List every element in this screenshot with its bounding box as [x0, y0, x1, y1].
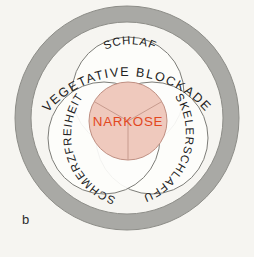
venn-diagram-svg: VEGETATIVE BLOCKADE SCHLAF MUSKELERSCHLA… — [0, 0, 254, 257]
figure-panel: VEGETATIVE BLOCKADE SCHLAF MUSKELERSCHLA… — [0, 0, 254, 257]
panel-label: b — [22, 212, 29, 227]
narkose-label: NARKOSE — [93, 114, 163, 129]
